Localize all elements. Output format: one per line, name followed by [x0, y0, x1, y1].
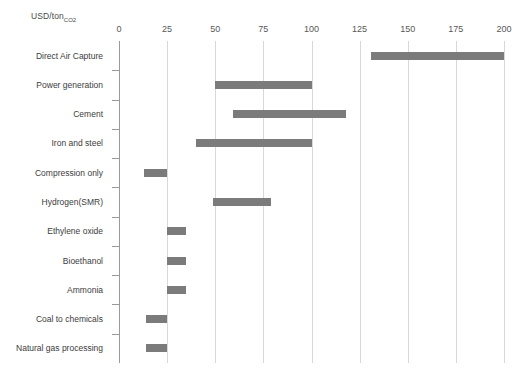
gridline-100: [312, 41, 313, 363]
bar-1: [215, 81, 311, 89]
gridline-125: [360, 41, 361, 363]
bar-7: [167, 257, 186, 265]
y-tick-mark-9: [112, 304, 119, 305]
y-tick-mark-8: [112, 275, 119, 276]
y-axis-line: [119, 41, 120, 363]
bar-3: [196, 139, 312, 147]
y-category-label-3: Iron and steel: [0, 138, 112, 148]
y-category-label-2: Cement: [0, 109, 112, 119]
bar-4: [144, 169, 167, 177]
y-tick-mark-10: [112, 334, 119, 335]
y-tick-mark-6: [112, 217, 119, 218]
y-category-label-10: Natural gas processing: [0, 343, 112, 353]
plot-area: [119, 41, 504, 363]
bar-2: [233, 110, 347, 118]
y-tick-mark-7: [112, 246, 119, 247]
x-tick-label-100: 100: [304, 24, 319, 34]
bar-6: [167, 227, 186, 235]
y-tick-mark-1: [112, 70, 119, 71]
gridline-175: [456, 41, 457, 363]
bar-10: [146, 344, 167, 352]
y-tick-mark-4: [112, 158, 119, 159]
y-tick-mark-3: [112, 129, 119, 130]
y-category-label-0: Direct Air Capture: [0, 51, 112, 61]
bar-0: [371, 52, 504, 60]
y-category-label-8: Ammonia: [0, 285, 112, 295]
gridline-200: [504, 41, 505, 363]
gridline-150: [408, 41, 409, 363]
y-category-label-6: Ethylene oxide: [0, 226, 112, 236]
x-tick-label-200: 200: [496, 24, 511, 34]
y-category-label-4: Compression only: [0, 168, 112, 178]
bar-5: [213, 198, 271, 206]
bar-9: [146, 315, 167, 323]
y-category-label-5: Hydrogen(SMR): [0, 197, 112, 207]
x-tick-label-75: 75: [258, 24, 268, 34]
x-tick-label-150: 150: [400, 24, 415, 34]
x-tick-label-125: 125: [352, 24, 367, 34]
y-tick-mark-5: [112, 187, 119, 188]
x-tick-label-50: 50: [210, 24, 220, 34]
gridline-25: [167, 41, 168, 363]
x-tick-label-0: 0: [116, 24, 121, 34]
x-tick-label-25: 25: [162, 24, 172, 34]
x-tick-label-175: 175: [448, 24, 463, 34]
y-axis-category-labels: Direct Air CapturePower generationCement…: [0, 0, 112, 380]
y-tick-mark-2: [112, 100, 119, 101]
y-category-label-9: Coal to chemicals: [0, 314, 112, 324]
y-category-label-1: Power generation: [0, 80, 112, 90]
y-category-label-7: Bioethanol: [0, 256, 112, 266]
bar-8: [167, 286, 186, 294]
co2-capture-cost-chart: USD/tonCO2 Direct Air CapturePower gener…: [0, 0, 527, 380]
